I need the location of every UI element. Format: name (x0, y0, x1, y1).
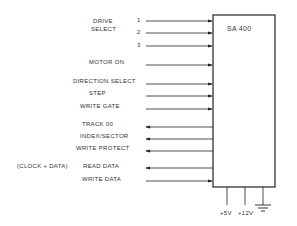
device-label: SA 400 (227, 25, 251, 32)
clock-data-label: (CLOCK + DATA) (17, 163, 68, 169)
write-protect-label: WRITE PROTECT (76, 145, 130, 151)
motor-on-label: MOTOR ON (89, 59, 124, 65)
drive-select-label: DRIVE (93, 18, 113, 24)
write-gate-label: WRITE GATE (80, 103, 120, 109)
drive-select-label-2: SELECT (91, 26, 116, 32)
index-sector-label: INDEX/SECTOR (80, 133, 129, 139)
power-5v-label: +5V (220, 210, 232, 216)
diagram-lines (0, 0, 297, 226)
pin-1-label: 1 (137, 17, 141, 23)
pin-3-label: 3 (137, 42, 141, 48)
pin-2-label: 2 (137, 29, 141, 35)
step-label: STEP (89, 90, 106, 96)
track00-label: TRACK 00 (82, 121, 113, 127)
write-data-label: WRITE DATA (82, 176, 121, 182)
read-data-label: READ DATA (83, 163, 119, 169)
device-box (213, 15, 275, 187)
power-12v-label: +12V (238, 210, 253, 216)
direction-select-label: DIRECTION SELECT (73, 78, 136, 84)
sa400-interface-diagram: SA 400 DRIVE SELECT 1 2 3 MOTOR ON DIREC… (0, 0, 297, 226)
